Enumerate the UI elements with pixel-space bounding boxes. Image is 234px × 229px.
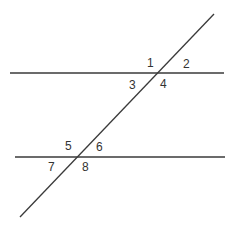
angle-label-7: 7: [48, 160, 55, 174]
angle-label-5: 5: [65, 139, 72, 153]
transversal-diagram: 1 2 3 4 5 6 7 8: [0, 0, 234, 229]
transversal-line: [20, 14, 214, 217]
angle-label-6: 6: [96, 140, 103, 154]
angle-label-2: 2: [183, 57, 190, 71]
angle-label-3: 3: [129, 78, 136, 92]
angle-label-4: 4: [160, 77, 167, 91]
angle-label-1: 1: [147, 56, 154, 70]
angle-label-8: 8: [82, 160, 89, 174]
